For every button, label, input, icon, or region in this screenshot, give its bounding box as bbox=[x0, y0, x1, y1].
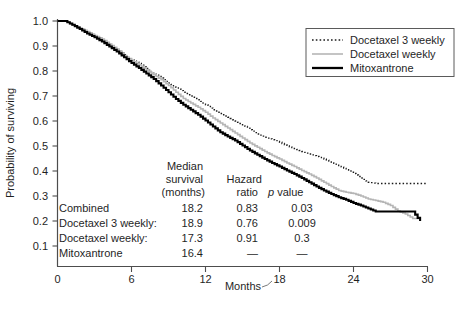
stats-header-pvalue-rest: value bbox=[274, 186, 303, 198]
stats-header-median-line1: Median bbox=[167, 160, 203, 172]
stats-row-pvalue: 0.3 bbox=[294, 232, 309, 244]
stats-header-median-line2: survival bbox=[166, 173, 203, 185]
stats-row-label: Docetaxel 3 weekly: bbox=[59, 217, 157, 229]
x-tick-label: 6 bbox=[128, 273, 134, 285]
stats-row-hazard: 0.76 bbox=[237, 217, 258, 229]
x-tick-label: 0 bbox=[54, 273, 60, 285]
stats-row-hazard: 0.83 bbox=[237, 202, 258, 214]
survival-curve-plot: 0.10.20.30.40.50.60.70.80.91.0 061218243… bbox=[0, 0, 458, 314]
stats-row-label: Docetaxel weekly: bbox=[59, 232, 148, 244]
y-tick-label: 0.4 bbox=[33, 165, 48, 177]
kaplan-meier-figure: 0.10.20.30.40.50.60.70.80.91.0 061218243… bbox=[0, 0, 458, 314]
stats-row-pvalue: 0.03 bbox=[291, 202, 312, 214]
x-tick-label: 12 bbox=[199, 273, 211, 285]
y-tick-label: 0.3 bbox=[33, 190, 48, 202]
y-tick-label: 0.5 bbox=[33, 140, 48, 152]
x-axis-title: Months bbox=[225, 280, 262, 292]
legend-label-0: Docetaxel 3 weekly bbox=[350, 34, 445, 46]
stats-header-median-line3: (months) bbox=[162, 186, 205, 198]
stats-header-hazard-line2: ratio bbox=[237, 186, 258, 198]
legend: Docetaxel 3 weekly Docetaxel weekly Mito… bbox=[306, 29, 454, 77]
x-tick-label: 18 bbox=[273, 273, 285, 285]
stats-row-pvalue: — bbox=[297, 247, 308, 259]
y-tick-label: 0.7 bbox=[33, 90, 48, 102]
stats-row-median: 17.3 bbox=[182, 232, 203, 244]
legend-label-2: Mitoxantrone bbox=[350, 62, 414, 74]
stats-row-median: 16.4 bbox=[182, 247, 203, 259]
y-tick-label: 0.6 bbox=[33, 115, 48, 127]
y-tick-label: 0.9 bbox=[33, 40, 48, 52]
y-tick-label: 0.1 bbox=[33, 240, 48, 252]
y-tick-label: 0.2 bbox=[33, 215, 48, 227]
y-tick-label: 0.8 bbox=[33, 65, 48, 77]
stats-header-pvalue: p value bbox=[267, 186, 303, 198]
stats-row-hazard: — bbox=[247, 247, 258, 259]
stats-row-hazard: 0.91 bbox=[237, 232, 258, 244]
stats-row-median: 18.9 bbox=[182, 217, 203, 229]
stats-row-label: Mitoxantrone bbox=[59, 247, 123, 259]
stats-row-pvalue: 0.009 bbox=[288, 217, 316, 229]
x-tick-label: 24 bbox=[347, 273, 359, 285]
y-tick-label: 1.0 bbox=[33, 15, 48, 27]
stats-row-label: Combined bbox=[59, 202, 109, 214]
y-axis-title: Probability of surviving bbox=[4, 88, 16, 198]
stats-header-pvalue-italic: p bbox=[267, 186, 274, 198]
x-tick-label: 30 bbox=[421, 273, 433, 285]
stats-row-median: 18.2 bbox=[182, 202, 203, 214]
legend-label-1: Docetaxel weekly bbox=[350, 48, 436, 60]
stats-header-hazard-line1: Hazard bbox=[227, 173, 262, 185]
